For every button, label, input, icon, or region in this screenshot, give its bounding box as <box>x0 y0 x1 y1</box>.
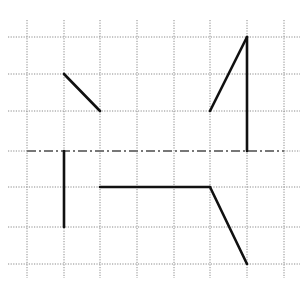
segment-upper-left-diagonal <box>64 74 100 111</box>
symmetry-grid-diagram <box>0 0 307 292</box>
segment-lower-right-diagonal <box>210 187 247 264</box>
grid-vertical-lines <box>27 20 284 278</box>
segment-upper-right-diagonal <box>210 37 247 111</box>
